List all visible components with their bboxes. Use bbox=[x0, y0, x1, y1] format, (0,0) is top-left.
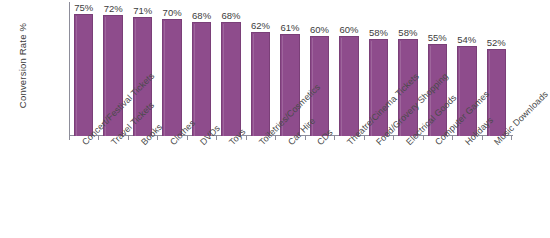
bar-group: 60% bbox=[310, 2, 329, 136]
x-axis-tick bbox=[128, 136, 129, 140]
x-axis-tick bbox=[98, 136, 99, 140]
x-axis-tick bbox=[157, 136, 158, 140]
bar[interactable] bbox=[251, 32, 270, 136]
bar-value-label: 68% bbox=[222, 10, 241, 21]
bar-value-label: 58% bbox=[398, 27, 417, 38]
bar-group: 68% bbox=[221, 2, 240, 136]
bar-value-label: 60% bbox=[310, 24, 329, 35]
bar-value-label: 52% bbox=[487, 37, 506, 48]
y-axis-title: Conversion Rate % bbox=[17, 6, 28, 126]
bar-value-label: 71% bbox=[133, 5, 152, 16]
bar-group: 68% bbox=[192, 2, 211, 136]
x-axis-tick bbox=[482, 136, 483, 140]
bar-value-label: 58% bbox=[369, 27, 388, 38]
x-axis-tick bbox=[216, 136, 217, 140]
x-axis-tick bbox=[393, 136, 394, 140]
bar[interactable] bbox=[74, 14, 93, 136]
bar[interactable] bbox=[221, 22, 240, 136]
bar-value-label: 62% bbox=[251, 20, 270, 31]
bar[interactable] bbox=[162, 19, 181, 136]
x-axis-tick bbox=[452, 136, 453, 140]
x-axis-tick bbox=[305, 136, 306, 140]
x-axis-tick bbox=[334, 136, 335, 140]
bar-group: 70% bbox=[162, 2, 181, 136]
bar-value-label: 68% bbox=[192, 10, 211, 21]
bar-value-label: 55% bbox=[428, 32, 447, 43]
x-axis-tick bbox=[275, 136, 276, 140]
bar-group: 75% bbox=[74, 2, 93, 136]
x-axis-tick bbox=[69, 136, 70, 140]
bar-value-label: 54% bbox=[457, 34, 476, 45]
x-axis-tick bbox=[246, 136, 247, 140]
bar-value-label: 60% bbox=[339, 24, 358, 35]
bar[interactable] bbox=[339, 36, 358, 137]
bar-group: 62% bbox=[251, 2, 270, 136]
bar[interactable] bbox=[192, 22, 211, 136]
x-axis-tick bbox=[364, 136, 365, 140]
bar-value-label: 61% bbox=[280, 22, 299, 33]
x-axis-tick bbox=[511, 136, 512, 140]
bar-value-label: 75% bbox=[74, 2, 93, 13]
bar-value-label: 72% bbox=[104, 3, 123, 14]
bar-value-label: 70% bbox=[163, 7, 182, 18]
bar-group: 60% bbox=[339, 2, 358, 136]
x-axis-tick bbox=[187, 136, 188, 140]
x-axis-tick bbox=[423, 136, 424, 140]
